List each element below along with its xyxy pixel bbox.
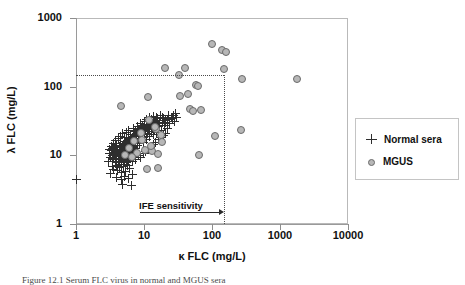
mgus-point bbox=[154, 150, 162, 158]
normal-sera-point bbox=[127, 181, 136, 190]
y-axis-title-text: λ FLC (mg/L) bbox=[5, 86, 17, 153]
legend-label-mgus: MGUS bbox=[383, 156, 413, 167]
y-tick-label: 100 bbox=[20, 81, 62, 92]
mgus-point bbox=[194, 82, 202, 90]
mgus-point bbox=[208, 40, 216, 48]
y-tick-label: 10 bbox=[20, 149, 62, 160]
y-tick bbox=[70, 155, 76, 156]
legend-item-mgus: MGUS bbox=[365, 150, 458, 172]
normal-sera-point bbox=[171, 109, 180, 118]
x-tick-label: 1000 bbox=[254, 230, 306, 241]
circle-marker-icon bbox=[368, 159, 375, 166]
y-axis-line bbox=[76, 18, 77, 225]
plus-marker-icon bbox=[365, 133, 379, 145]
legend-item-normal-sera: Normal sera bbox=[365, 128, 458, 150]
mgus-point bbox=[222, 48, 230, 56]
mgus-point bbox=[128, 153, 136, 161]
normal-sera-point bbox=[104, 157, 113, 166]
legend: Normal sera MGUS bbox=[355, 118, 459, 180]
normal-sera-point bbox=[118, 180, 127, 189]
x-tick-label: 10 bbox=[118, 230, 170, 241]
normal-sera-point bbox=[72, 175, 81, 184]
ife-horizontal bbox=[76, 75, 224, 76]
x-tick-label: 100 bbox=[186, 230, 238, 241]
mgus-point bbox=[117, 102, 125, 110]
mgus-point bbox=[147, 142, 155, 150]
x-axis-title: κ FLC (mg/L) bbox=[76, 250, 348, 262]
legend-label-normal-sera: Normal sera bbox=[384, 134, 442, 145]
normal-sera-point bbox=[106, 169, 115, 178]
y-tick-label: 1000 bbox=[20, 12, 62, 23]
mgus-point bbox=[154, 164, 162, 172]
mgus-point bbox=[211, 132, 219, 140]
y-axis-title: λ FLC (mg/L) bbox=[2, 60, 20, 180]
mgus-point bbox=[161, 64, 169, 72]
mgus-point bbox=[143, 165, 151, 173]
x-tick-label: 1 bbox=[50, 230, 102, 241]
y-tick bbox=[70, 87, 76, 88]
y-tick bbox=[70, 18, 76, 19]
mgus-point bbox=[293, 75, 301, 83]
figure-scatter-plot: 1101001000110100100010000 IFE sensitivit… bbox=[0, 0, 465, 285]
y-tick-label: 1 bbox=[20, 218, 62, 229]
mgus-point bbox=[151, 123, 159, 131]
x-tick-label: 10000 bbox=[322, 230, 374, 241]
ife-vertical bbox=[224, 75, 225, 224]
figure-caption: Figure 12.1 Serum FLC virus in normal an… bbox=[22, 275, 452, 285]
mgus-point bbox=[184, 90, 192, 98]
plot-area bbox=[76, 18, 348, 224]
ife-sensitivity-label: IFE sensitivity bbox=[139, 200, 203, 211]
normal-sera-point bbox=[128, 170, 137, 179]
mgus-point bbox=[189, 107, 197, 115]
